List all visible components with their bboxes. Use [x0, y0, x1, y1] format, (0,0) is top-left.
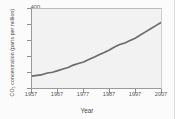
y-axis-label: CO₂ concentration (parts per million) [10, 5, 15, 101]
x-axis-tick-label: 1997 [122, 92, 148, 98]
plot-area [31, 8, 162, 89]
co2-data-line [32, 22, 161, 76]
x-axis-tick-label: 1967 [44, 92, 70, 98]
x-axis-tick-label: 1977 [70, 92, 96, 98]
chart-figure: CO₂ concentration (parts per million) 40… [0, 0, 175, 119]
line-chart-svg [32, 9, 161, 88]
x-axis-tick-label: 1957 [18, 92, 44, 98]
x-axis-tick-label: 2007 [148, 92, 174, 98]
x-axis-tick-label: 1987 [96, 92, 122, 98]
x-axis-label: Year [0, 107, 174, 114]
